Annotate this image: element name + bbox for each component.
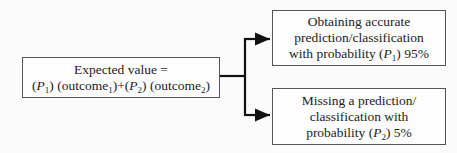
box-text-line: Missing a prediction/	[273, 93, 445, 109]
expected-value-label: Expected value =	[23, 62, 219, 78]
box-text-line: with probability (P1) 95%	[273, 46, 445, 62]
missing-prediction-box: Missing a prediction/ classification wit…	[272, 88, 446, 145]
box-text-line: probability (P2) 5%	[273, 125, 445, 141]
expected-value-formula: (P1) (outcome1)+(P2) (outcome2)	[23, 78, 219, 94]
expected-value-box: Expected value = (P1) (outcome1)+(P2) (o…	[22, 57, 220, 98]
box-text-line: prediction/classification	[273, 30, 445, 46]
box-text-line: Obtaining accurate	[273, 14, 445, 30]
accurate-prediction-box: Obtaining accurate prediction/classifica…	[272, 10, 446, 66]
box-text-line: classification with	[273, 109, 445, 125]
